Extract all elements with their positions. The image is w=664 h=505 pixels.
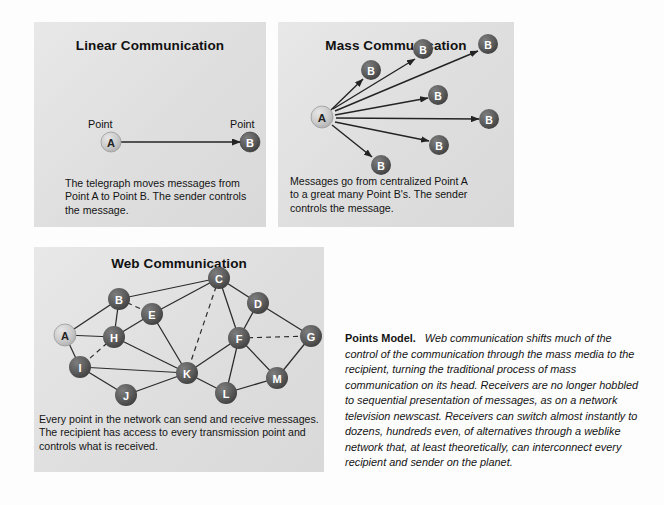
node-b-1-label: B — [367, 65, 375, 77]
edge-a-b1 — [331, 79, 363, 110]
node-a — [54, 324, 76, 346]
edge-a-b7 — [332, 125, 372, 157]
edge-a-b2 — [333, 59, 415, 109]
web-dashed-edges — [80, 278, 311, 373]
edge-h-i-dashed — [80, 337, 114, 367]
figure-page: Linear Communication Point Point — [0, 0, 664, 505]
node-i-label: I — [78, 362, 81, 374]
edge-a-b5 — [336, 118, 479, 119]
panel-web-communication: Web Communication — [34, 247, 324, 472]
node-d-label: D — [254, 298, 262, 310]
edge-e-k — [152, 314, 187, 373]
node-k — [176, 362, 198, 384]
edge-d-f — [239, 303, 258, 338]
node-a-label: A — [107, 137, 115, 149]
edge-d-g — [258, 303, 311, 336]
node-k-label: K — [183, 368, 191, 380]
node-b-label: B — [115, 294, 123, 306]
mass-edges — [331, 51, 479, 157]
node-j — [115, 384, 137, 406]
node-b-7 — [371, 155, 391, 175]
node-h — [103, 326, 125, 348]
node-b-4-label: B — [434, 90, 442, 102]
node-f — [228, 327, 250, 349]
edge-b-e-dashed — [119, 299, 152, 314]
panel-linear-communication: Linear Communication Point Point — [34, 22, 266, 227]
node-m-label: M — [272, 373, 281, 385]
panel-mass-communication: Mass Communication — [278, 22, 514, 227]
edge-a-h — [65, 335, 114, 337]
edge-i-j — [80, 367, 126, 395]
point-label-right: Point — [230, 118, 255, 130]
edge-b-h — [114, 299, 119, 337]
edge-a-b6 — [335, 122, 429, 141]
node-b-4 — [428, 85, 448, 105]
edge-c-e — [152, 278, 219, 314]
edge-f-m — [239, 338, 277, 378]
edge-c-f — [219, 278, 239, 338]
edge-a-b — [65, 299, 119, 335]
panel-title-web: Web Communication — [34, 256, 324, 271]
node-a-label: A — [61, 330, 69, 342]
node-d — [247, 292, 269, 314]
edge-f-k — [187, 338, 239, 373]
node-e-label: E — [148, 309, 155, 321]
edge-i-k — [80, 367, 187, 373]
edge-f-l — [226, 338, 239, 393]
edge-a-b3 — [335, 51, 478, 111]
edge-f-g-dashed — [239, 336, 311, 338]
edge-c-k-dashed — [187, 278, 219, 373]
node-b-1 — [361, 60, 381, 80]
edge-j-k — [126, 373, 187, 395]
caption-mass: Messages go from centralized Point A to … — [290, 175, 512, 215]
edge-b-c — [119, 278, 219, 299]
node-a — [101, 132, 121, 152]
caption-linear: The telegraph moves messages from Point … — [65, 177, 265, 217]
node-j-label: J — [123, 390, 129, 402]
panel-title-linear: Linear Communication — [34, 38, 266, 53]
web-nodes: A B C D E F G H I J — [54, 267, 322, 406]
node-c-label: C — [215, 273, 223, 285]
node-b-label: B — [246, 137, 254, 149]
node-g — [300, 325, 322, 347]
point-label-left: Point — [88, 118, 113, 130]
node-b-5 — [479, 109, 499, 129]
mass-target-nodes: B B B B B B B — [361, 34, 499, 175]
edge-a-b4 — [335, 98, 428, 115]
node-l — [215, 382, 237, 404]
edge-a-i — [65, 335, 80, 367]
panel-title-mass: Mass Communication — [278, 38, 514, 53]
node-i — [69, 356, 91, 378]
edge-h-k — [114, 337, 187, 373]
edge-k-l — [187, 373, 226, 393]
edge-g-m — [277, 336, 311, 378]
node-b-6-label: B — [435, 140, 443, 152]
node-h-label: H — [110, 332, 118, 344]
points-model-paragraph: Points Model.Web communication shifts mu… — [345, 331, 647, 471]
points-model-lead: Points Model. — [345, 332, 416, 344]
node-m — [266, 367, 288, 389]
web-solid-edges — [65, 278, 311, 395]
points-model-text: Web communication shifts much of the con… — [345, 332, 638, 468]
node-b — [108, 288, 130, 310]
node-a-source-label: A — [318, 112, 326, 124]
edge-e-h — [114, 314, 152, 337]
node-e — [141, 303, 163, 325]
node-b — [240, 132, 260, 152]
node-l-label: L — [223, 388, 230, 400]
node-f-label: F — [236, 333, 243, 345]
node-a-source — [311, 106, 333, 128]
node-g-label: G — [307, 331, 316, 343]
edge-c-d — [219, 278, 258, 303]
edge-l-m — [226, 378, 277, 393]
node-b-5-label: B — [485, 114, 493, 126]
caption-web: Every point in the network can send and … — [39, 413, 324, 453]
node-b-6 — [429, 135, 449, 155]
node-b-7-label: B — [377, 160, 385, 172]
